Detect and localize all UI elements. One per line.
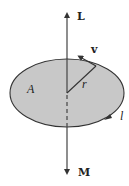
label-M: M [78,166,90,179]
label-r: r [82,77,87,91]
label-l: l [120,109,124,123]
label-L: L [77,10,85,23]
label-A: A [26,82,35,96]
label-v: v [90,43,98,56]
loop-diagram: L v r A l M [0,0,129,186]
